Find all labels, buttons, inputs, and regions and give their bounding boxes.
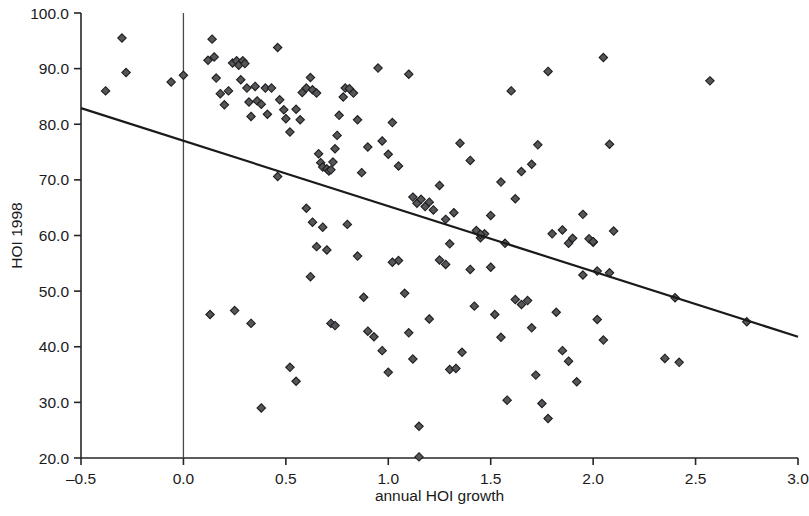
data-point xyxy=(491,310,499,318)
x-tick-label: 2.0 xyxy=(582,470,604,487)
data-point xyxy=(343,220,351,228)
data-point xyxy=(450,208,458,216)
data-point xyxy=(511,295,519,303)
data-point xyxy=(306,73,314,81)
data-point xyxy=(446,240,454,248)
x-axis-tick-labels: –0.50.00.51.01.52.02.53.0 xyxy=(66,470,809,487)
data-point xyxy=(564,357,572,365)
data-point xyxy=(452,364,460,372)
data-point xyxy=(273,172,281,180)
data-point xyxy=(220,101,228,109)
data-point xyxy=(243,84,251,92)
data-point xyxy=(370,333,378,341)
data-point xyxy=(286,128,294,136)
data-point xyxy=(456,139,464,147)
data-point xyxy=(292,377,300,385)
y-tick-label: 60.0 xyxy=(39,227,70,244)
data-point xyxy=(267,84,275,92)
x-tick-label: 2.5 xyxy=(685,470,707,487)
data-point xyxy=(314,150,322,158)
y-tick-label: 50.0 xyxy=(39,283,70,300)
trendline xyxy=(81,108,798,337)
data-point xyxy=(538,399,546,407)
data-point xyxy=(282,114,290,122)
data-point xyxy=(329,158,337,166)
data-point xyxy=(273,43,281,51)
data-point xyxy=(466,156,474,164)
data-point xyxy=(470,302,478,310)
data-points-group xyxy=(101,34,751,461)
data-point xyxy=(237,76,245,84)
data-point xyxy=(558,346,566,354)
data-point xyxy=(224,87,232,95)
data-point xyxy=(247,319,255,327)
data-point xyxy=(388,118,396,126)
x-tick-label: 3.0 xyxy=(787,470,809,487)
data-point xyxy=(435,181,443,189)
data-point xyxy=(257,404,265,412)
x-axis-title: annual HOI growth xyxy=(375,487,504,504)
x-tick-label: 1.0 xyxy=(378,470,400,487)
chart-figure: 20.030.040.050.060.070.080.090.0100.0 –0… xyxy=(0,0,809,516)
data-point xyxy=(122,68,130,76)
data-point xyxy=(599,53,607,61)
data-point xyxy=(599,336,607,344)
data-point xyxy=(409,355,417,363)
data-point xyxy=(296,116,304,124)
data-point xyxy=(511,195,519,203)
data-point xyxy=(527,160,535,168)
data-point xyxy=(384,368,392,376)
data-point xyxy=(312,242,320,250)
data-point xyxy=(212,74,220,82)
data-point xyxy=(415,453,423,461)
data-point xyxy=(661,354,669,362)
data-point xyxy=(552,308,560,316)
data-point xyxy=(573,378,581,386)
data-point xyxy=(263,110,271,118)
data-point xyxy=(544,67,552,75)
data-point xyxy=(558,226,566,234)
data-point xyxy=(245,98,253,106)
data-point xyxy=(280,106,288,114)
data-point xyxy=(517,167,525,175)
data-point xyxy=(357,168,365,176)
y-tick-label: 70.0 xyxy=(39,171,70,188)
data-point xyxy=(308,218,316,226)
data-point xyxy=(609,227,617,235)
data-point xyxy=(364,143,372,151)
data-point xyxy=(675,358,683,366)
data-point xyxy=(230,306,238,314)
data-point xyxy=(167,78,175,86)
y-axis-title: HOI 1998 xyxy=(8,202,25,268)
data-point xyxy=(487,263,495,271)
data-point xyxy=(593,315,601,323)
data-point xyxy=(497,333,505,341)
data-point xyxy=(458,348,466,356)
x-tick-label: 1.5 xyxy=(480,470,502,487)
data-point xyxy=(706,77,714,85)
tick-marks-group xyxy=(74,13,798,465)
data-point xyxy=(429,206,437,214)
y-tick-label: 90.0 xyxy=(39,60,70,77)
x-tick-label: 0.5 xyxy=(275,470,297,487)
scatter-plot-svg: 20.030.040.050.060.070.080.090.0100.0 –0… xyxy=(0,0,809,516)
data-point xyxy=(179,71,187,79)
data-point xyxy=(101,87,109,95)
data-point xyxy=(384,150,392,158)
y-tick-label: 80.0 xyxy=(39,116,70,133)
data-point xyxy=(374,64,382,72)
x-tick-label: 0.0 xyxy=(173,470,195,487)
data-point xyxy=(323,246,331,254)
y-tick-label: 30.0 xyxy=(39,394,70,411)
data-point xyxy=(333,131,341,139)
data-point xyxy=(360,293,368,301)
data-point xyxy=(466,265,474,273)
data-point xyxy=(534,141,542,149)
y-tick-label: 40.0 xyxy=(39,338,70,355)
data-point xyxy=(487,211,495,219)
data-point xyxy=(118,34,126,42)
data-point xyxy=(302,204,310,212)
data-point xyxy=(364,327,372,335)
data-point xyxy=(286,363,294,371)
data-point xyxy=(548,230,556,238)
